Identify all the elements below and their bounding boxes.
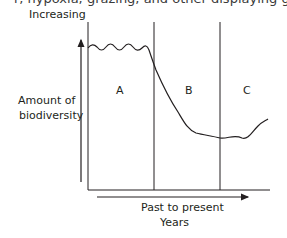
y-axis-label-line2: biodiversity [19, 109, 83, 122]
x-axis-label: Years [160, 216, 189, 229]
region-a-label: A [116, 84, 124, 97]
biodiversity-curve [88, 44, 268, 138]
increasing-label: Increasing [29, 8, 86, 21]
x-arrow-label: Past to present [141, 201, 224, 214]
region-b-label: B [185, 84, 193, 97]
region-c-label: C [243, 84, 251, 97]
y-axis-label-line1: Amount of [18, 94, 75, 107]
